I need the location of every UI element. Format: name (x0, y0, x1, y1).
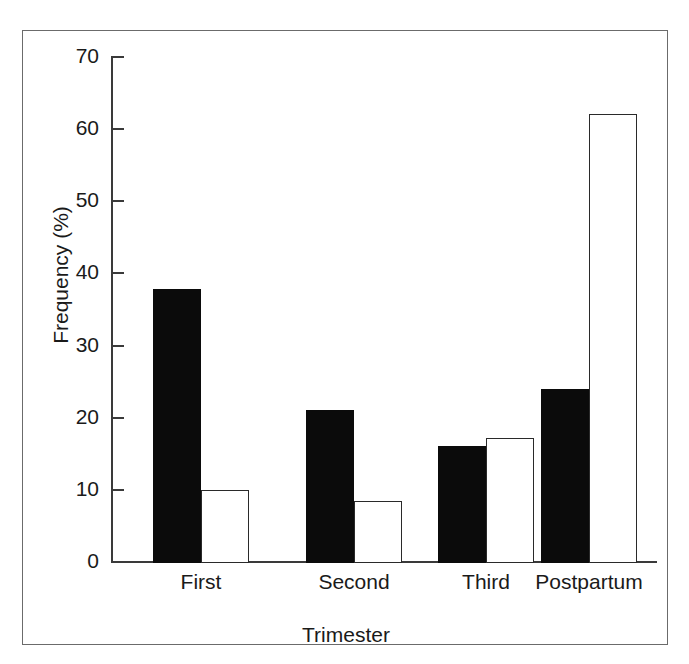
y-tick-label: 70 (76, 44, 99, 68)
y-tick-label: 10 (76, 477, 99, 501)
y-tick-label: 60 (76, 116, 99, 140)
bar-second-open (354, 501, 402, 563)
bar-second-filled (306, 410, 354, 563)
x-category-label-postpartum: Postpartum (535, 570, 642, 594)
x-category-label-first: First (181, 570, 222, 594)
y-axis-label: Frequency (%) (49, 175, 73, 375)
x-category-label-third: Third (462, 570, 510, 594)
y-tick-label: 20 (76, 405, 99, 429)
y-tick-label: 0 (87, 549, 99, 573)
bar-group (111, 56, 657, 563)
bar-first-filled (153, 289, 201, 563)
chart-figure-frame: Frequency (%) Trimester 010203040506070 … (22, 30, 668, 645)
x-axis-label: Trimester (23, 623, 669, 647)
y-tick-label: 50 (76, 188, 99, 212)
bar-third-open (486, 438, 534, 563)
y-tick-label: 40 (76, 260, 99, 284)
x-category-label-second: Second (318, 570, 389, 594)
plot-area: 010203040506070 FirstSecondThirdPostpart… (111, 56, 657, 587)
bar-third-filled (438, 446, 486, 563)
bar-postpartum-filled (541, 389, 589, 563)
bar-postpartum-open (589, 114, 637, 563)
y-tick-label: 30 (76, 333, 99, 357)
bar-first-open (201, 490, 249, 563)
